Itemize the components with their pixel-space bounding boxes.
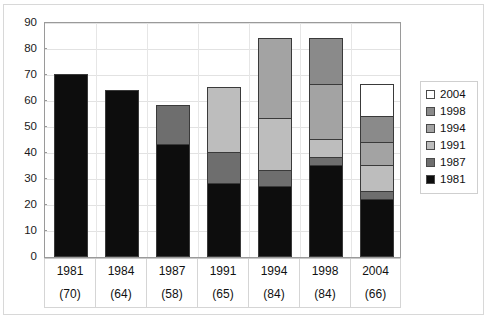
category-separator [198,23,199,257]
x-axis-label-year: 2004 [351,264,400,278]
legend-item-1981[interactable]: 1981 [426,171,474,188]
bar-segment-1998-1987[interactable] [309,157,343,166]
bar-1981[interactable] [54,23,88,257]
y-axis-tick-label: 90 [24,17,37,28]
legend-item-1998[interactable]: 1998 [426,103,474,120]
category-separator [300,23,301,257]
bar-1991[interactable] [207,23,241,257]
y-axis-tick-label: 10 [24,225,37,236]
x-axis-cell-1987: 1987(58) [146,258,197,308]
legend-swatch-icon [426,90,435,99]
category-separator [249,23,250,257]
x-axis-label-count: (64) [96,287,146,301]
legend-swatch-icon [426,175,435,184]
x-axis-label-year: 1994 [249,264,299,278]
category-separator [96,23,97,257]
legend-item-label: 1994 [440,123,466,134]
x-axis-label-count: (58) [147,287,197,301]
legend-swatch-icon [426,158,435,167]
x-axis-cell-2004: 2004(66) [350,258,401,308]
bar-segment-1987-1987[interactable] [156,105,190,145]
legend-item-label: 2004 [440,89,466,100]
x-axis-label-count: (84) [300,287,350,301]
x-axis-label-year: 1984 [96,264,146,278]
legend-swatch-icon [426,107,435,116]
legend-swatch-icon [426,141,435,150]
bar-segment-2004-1981[interactable] [360,199,394,257]
chart-legend: 200419981994199119871981 [420,81,478,194]
bar-segment-2004-1994[interactable] [360,142,394,166]
bar-1987[interactable] [156,23,190,257]
bar-segment-2004-2004[interactable] [360,84,394,116]
bar-segment-1981-1981[interactable] [54,74,88,257]
x-axis-label-count: (65) [198,287,248,301]
y-axis-tick-mark [44,178,47,179]
bar-segment-1998-1998[interactable] [309,38,343,86]
x-axis-label-year: 1987 [147,264,197,278]
legend-item-label: 1998 [440,106,466,117]
bar-segment-1994-1981[interactable] [258,186,292,257]
legend-item-label: 1981 [440,174,466,185]
legend-item-1987[interactable]: 1987 [426,154,474,171]
bar-segment-1994-1991[interactable] [258,118,292,171]
x-axis-bottom-border [44,307,401,308]
plot-area [44,22,401,258]
bar-segment-1991-1987[interactable] [207,152,241,184]
bar-segment-1998-1994[interactable] [309,84,343,140]
legend-swatch-icon [426,124,435,133]
y-axis-tick-label: 20 [24,199,37,210]
y-axis-tick-label: 70 [24,69,37,80]
y-axis-tick-mark [44,230,47,231]
bar-segment-1984-1981[interactable] [105,90,139,257]
y-axis-tick-mark [44,74,47,75]
chart-container: 0102030405060708090 1981(70)1984(64)1987… [0,0,489,324]
x-axis-cell-1981: 1981(70) [44,258,95,308]
bar-segment-1998-1991[interactable] [309,139,343,158]
bar-segment-1994-1987[interactable] [258,170,292,187]
y-axis-tick-label: 50 [24,121,37,132]
y-axis-tick-mark [44,152,47,153]
y-axis-tick-mark [44,48,47,49]
x-axis-label-count: (84) [249,287,299,301]
y-axis-tick-label: 80 [24,43,37,54]
y-axis-tick-label: 0 [31,251,37,262]
bar-1998[interactable] [309,23,343,257]
bar-1994[interactable] [258,23,292,257]
bar-segment-1998-1981[interactable] [309,165,343,257]
legend-item-label: 1987 [440,157,466,168]
bar-segment-1991-1991[interactable] [207,87,241,153]
bar-segment-2004-1991[interactable] [360,165,394,192]
y-axis-tick-mark [44,100,47,101]
bar-segment-2004-1987[interactable] [360,191,394,200]
x-axis-cell-1994: 1994(84) [248,258,299,308]
bar-1984[interactable] [105,23,139,257]
y-axis-tick-mark [44,126,47,127]
legend-item-2004[interactable]: 2004 [426,86,474,103]
bar-segment-2004-1998[interactable] [360,116,394,143]
bar-segment-1991-1981[interactable] [207,183,241,257]
legend-item-1994[interactable]: 1994 [426,120,474,137]
x-axis: 1981(70)1984(64)1987(58)1991(65)1994(84)… [44,258,401,308]
x-axis-cell-1998: 1998(84) [299,258,350,308]
y-axis-tick-label: 40 [24,147,37,158]
bar-segment-1994-1994[interactable] [258,38,292,120]
x-axis-label-count: (70) [45,287,95,301]
bar-segment-1987-1981[interactable] [156,144,190,257]
x-axis-baseline [44,258,401,259]
x-axis-cell-1984: 1984(64) [95,258,146,308]
x-axis-label-count: (66) [351,287,400,301]
y-axis-tick-mark [44,204,47,205]
y-axis-tick-label: 30 [24,173,37,184]
x-axis-label-year: 1998 [300,264,350,278]
y-axis: 0102030405060708090 [0,22,42,258]
x-axis-label-year: 1991 [198,264,248,278]
category-separator [351,23,352,257]
y-axis-tick-label: 60 [24,95,37,106]
legend-item-1991[interactable]: 1991 [426,137,474,154]
category-separator [147,23,148,257]
x-axis-cell-1991: 1991(65) [197,258,248,308]
bar-2004[interactable] [360,23,394,257]
x-axis-label-year: 1981 [45,264,95,278]
legend-item-label: 1991 [440,140,466,151]
chart-title [0,0,489,3]
